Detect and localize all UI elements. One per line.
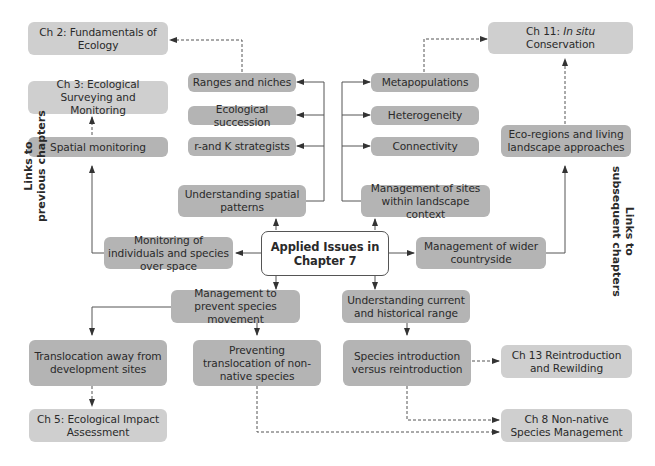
chapter-label: Ch 5: Ecological Impact Assessment — [33, 413, 163, 439]
side-label-previous-chapters: Links to previous chapters — [22, 110, 48, 222]
topic-translocation-away[interactable]: Translocation away from development site… — [29, 340, 167, 386]
chapter-label: Ch 3: Ecological Surveying and Monitorin… — [32, 78, 164, 117]
central-node-line2: Chapter 7 — [294, 254, 357, 268]
topic-management-wider-countryside[interactable]: Management of wider countryside — [416, 237, 546, 269]
topic-label: Ranges and niches — [193, 76, 291, 89]
topic-label: Ecological succession — [192, 103, 292, 129]
topic-rk-strategists[interactable]: r-and K strategists — [188, 137, 296, 156]
topic-connectivity[interactable]: Connectivity — [371, 137, 479, 156]
chapter-label-suffix: Conservation — [526, 38, 595, 50]
chapter-label: Ch 2: Fundamentals of Ecology — [32, 26, 164, 52]
side-label-line2: subsequent chapters — [610, 166, 623, 297]
topic-management-of-sites[interactable]: Management of sites within landscape con… — [361, 185, 490, 217]
chapter-box-ch11[interactable]: Ch 11: In situ Conservation — [488, 22, 633, 54]
chapter-box-ch2[interactable]: Ch 2: Fundamentals of Ecology — [28, 22, 168, 55]
topic-label: Metapopulations — [382, 76, 469, 89]
topic-label: Understanding spatial patterns — [182, 188, 302, 214]
chapter-box-ch3[interactable]: Ch 3: Ecological Surveying and Monitorin… — [28, 81, 168, 114]
topic-metapopulations[interactable]: Metapopulations — [371, 73, 479, 92]
topic-label: Translocation away from development site… — [33, 350, 163, 376]
side-label-line1: Links to — [22, 110, 35, 222]
topic-ranges-niches[interactable]: Ranges and niches — [188, 73, 296, 92]
chapter-box-ch8[interactable]: Ch 8 Non-native Species Management — [501, 409, 632, 442]
topic-species-introduction[interactable]: Species introduction versus reintroducti… — [343, 340, 471, 386]
topic-eco-regions[interactable]: Eco-regions and living landscape approac… — [501, 125, 631, 157]
topic-label: Management to prevent species movement — [175, 287, 296, 326]
side-label-line2: previous chapters — [35, 110, 48, 222]
chapter-label-prefix: Ch 11: — [526, 25, 563, 37]
topic-label: r-and K strategists — [194, 140, 289, 153]
topic-label: Management of sites within landscape con… — [365, 182, 486, 221]
chapter-label: Ch 13 Reintroduction and Rewilding — [505, 349, 628, 375]
topic-spatial-monitoring[interactable]: Spatial monitoring — [28, 137, 168, 157]
chapter-label: Ch 11: In situ Conservation — [492, 25, 629, 51]
topic-label: Species introduction versus reintroducti… — [347, 350, 467, 376]
topic-label: Understanding current and historical ran… — [346, 294, 466, 320]
topic-label: Connectivity — [392, 140, 457, 153]
side-label-subsequent-chapters: Links to subsequent chapters — [610, 166, 636, 297]
topic-management-prevent-movement[interactable]: Management to prevent species movement — [171, 290, 300, 323]
chapter-box-ch5[interactable]: Ch 5: Ecological Impact Assessment — [29, 409, 167, 442]
chapter-box-ch13[interactable]: Ch 13 Reintroduction and Rewilding — [501, 345, 632, 378]
central-node-line1: Applied Issues in — [271, 240, 380, 254]
topic-heterogeneity[interactable]: Heterogeneity — [371, 106, 479, 125]
topic-label: Management of wider countryside — [420, 240, 542, 266]
chapter-label-italic: In situ — [563, 25, 595, 37]
topic-label: Eco-regions and living landscape approac… — [505, 128, 627, 154]
topic-label: Heterogeneity — [388, 109, 462, 122]
side-label-line1: Links to — [623, 166, 636, 297]
topic-understanding-range[interactable]: Understanding current and historical ran… — [342, 290, 470, 323]
topic-label: Spatial monitoring — [50, 141, 146, 154]
central-node-applied-issues[interactable]: Applied Issues in Chapter 7 — [261, 231, 389, 276]
topic-label: Preventing translocation of non-native s… — [197, 344, 317, 383]
topic-monitoring-individuals[interactable]: Monitoring of individuals and species ov… — [104, 237, 233, 269]
topic-understanding-spatial-patterns[interactable]: Understanding spatial patterns — [178, 185, 306, 217]
topic-preventing-translocation[interactable]: Preventing translocation of non-native s… — [193, 340, 321, 386]
chapter-label: Ch 8 Non-native Species Management — [505, 413, 628, 439]
topic-label: Monitoring of individuals and species ov… — [108, 234, 229, 273]
topic-ecological-succession[interactable]: Ecological succession — [188, 106, 296, 125]
